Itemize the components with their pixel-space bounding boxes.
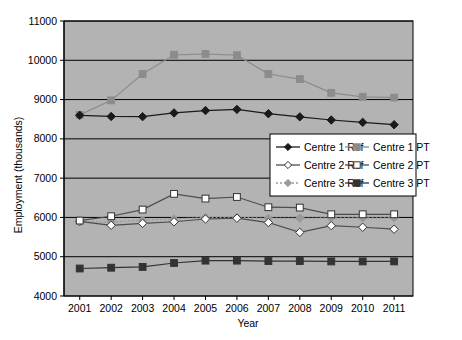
data-point-marker xyxy=(202,195,209,202)
data-point-marker xyxy=(234,257,241,264)
data-point-marker xyxy=(265,71,272,78)
x-tick-label: 2009 xyxy=(320,302,344,314)
data-point-marker xyxy=(108,264,115,271)
y-tick-label: 7000 xyxy=(34,172,58,184)
data-point-marker xyxy=(359,93,366,100)
data-point-marker xyxy=(328,89,335,96)
data-point-marker xyxy=(354,180,360,186)
data-point-marker xyxy=(76,265,83,272)
employment-line-chart: 4000500060007000800090001000011000 20012… xyxy=(0,0,462,340)
legend-label: Centre 2 PT xyxy=(373,159,430,171)
y-tick-label: 4000 xyxy=(34,290,58,302)
x-tick-label: 2008 xyxy=(288,302,312,314)
x-axis-tick-labels: 2001200220032004200520062007200820092010… xyxy=(68,302,406,314)
x-axis-title: Year xyxy=(237,317,259,329)
x-tick-label: 2007 xyxy=(257,302,281,314)
data-point-marker xyxy=(76,217,83,224)
x-tick-label: 2004 xyxy=(162,302,186,314)
data-point-marker xyxy=(234,52,241,59)
data-point-marker xyxy=(296,76,303,83)
x-tick-label: 2005 xyxy=(194,302,218,314)
y-tick-label: 9000 xyxy=(34,93,58,105)
y-axis-title: Employment (thousands) xyxy=(12,117,24,234)
y-tick-label: 11000 xyxy=(29,15,58,27)
data-point-marker xyxy=(296,258,303,265)
legend-label: Centre 1 PT xyxy=(373,141,430,153)
x-tick-label: 2003 xyxy=(131,302,155,314)
data-point-marker xyxy=(391,211,398,218)
x-tick-label: 2010 xyxy=(351,302,375,314)
data-point-marker xyxy=(202,257,209,264)
data-point-marker xyxy=(354,144,360,150)
x-tick-label: 2011 xyxy=(383,302,406,314)
data-point-marker xyxy=(265,204,272,211)
data-point-marker xyxy=(171,260,178,267)
data-point-marker xyxy=(354,162,360,168)
data-point-marker xyxy=(359,211,366,218)
legend-label: Centre 3 PT xyxy=(373,177,430,189)
y-axis-tick-labels: 4000500060007000800090001000011000 xyxy=(28,15,57,302)
data-point-marker xyxy=(265,258,272,265)
data-point-marker xyxy=(296,204,303,211)
y-tick-label: 8000 xyxy=(34,132,58,144)
data-point-marker xyxy=(234,194,241,201)
chart-canvas: 4000500060007000800090001000011000 20012… xyxy=(0,0,462,340)
chart-legend: Centre 1 RefCentre 1 PTCentre 2 RefCentr… xyxy=(270,134,430,196)
data-point-marker xyxy=(108,97,115,104)
x-tick-label: 2002 xyxy=(99,302,123,314)
data-point-marker xyxy=(139,71,146,78)
data-point-marker xyxy=(359,258,366,265)
y-tick-label: 6000 xyxy=(34,211,58,223)
data-point-marker xyxy=(202,51,209,58)
data-point-marker xyxy=(391,258,398,265)
data-point-marker xyxy=(139,206,146,213)
data-point-marker xyxy=(171,190,178,197)
data-point-marker xyxy=(328,258,335,265)
data-point-marker xyxy=(328,211,335,218)
data-point-marker xyxy=(108,213,115,220)
data-point-marker xyxy=(139,264,146,271)
data-point-marker xyxy=(391,94,398,101)
x-tick-label: 2001 xyxy=(68,302,92,314)
x-tick-label: 2006 xyxy=(225,302,249,314)
y-tick-label: 5000 xyxy=(34,250,58,262)
y-tick-label: 10000 xyxy=(28,54,57,66)
data-point-marker xyxy=(171,51,178,58)
